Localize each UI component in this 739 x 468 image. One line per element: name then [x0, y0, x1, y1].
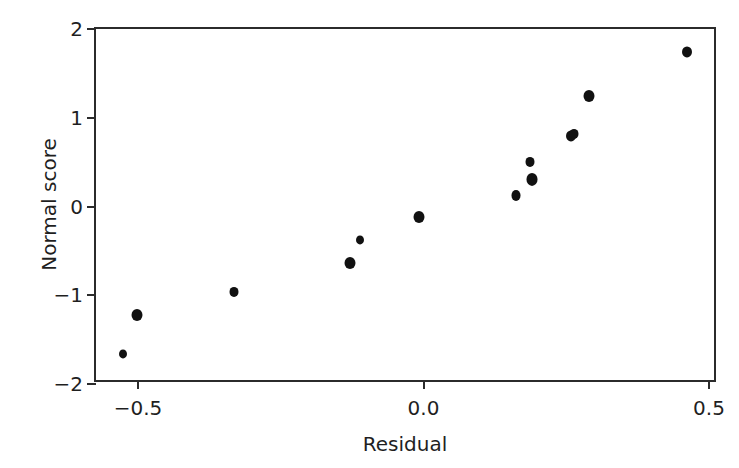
data-point: [119, 350, 127, 359]
x-tick-label: −0.5: [114, 398, 163, 418]
x-tick-label: 0.0: [408, 398, 440, 418]
y-tick-mark: [87, 294, 96, 296]
x-tick-mark: [708, 380, 710, 389]
y-tick-mark: [87, 117, 96, 119]
y-tick-label: 1: [70, 108, 83, 128]
data-point: [569, 129, 578, 139]
x-axis-title: Residual: [94, 432, 716, 456]
data-point: [356, 235, 364, 244]
normal-probability-plot-figure: −2−1012 −0.50.00.5 Residual Normal score: [0, 0, 739, 468]
x-tick-label: 0.5: [693, 398, 725, 418]
y-axis-title: Normal score: [34, 27, 64, 382]
data-point: [413, 211, 424, 223]
data-point: [526, 173, 537, 185]
data-point: [682, 46, 692, 57]
data-point: [584, 90, 595, 102]
y-tick-mark: [87, 206, 96, 208]
y-tick-mark: [87, 28, 96, 30]
plot-area: −2−1012 −0.50.00.5: [94, 27, 716, 382]
x-tick-mark: [137, 380, 139, 389]
data-point: [344, 257, 355, 269]
scatter-points: [96, 29, 714, 380]
data-point: [131, 309, 142, 321]
data-point: [526, 157, 535, 167]
y-tick-label: 2: [70, 19, 83, 39]
y-tick-label: 0: [70, 197, 83, 217]
data-point: [229, 287, 238, 297]
x-tick-mark: [423, 380, 425, 389]
y-tick-mark: [87, 383, 96, 385]
data-point: [512, 190, 521, 200]
